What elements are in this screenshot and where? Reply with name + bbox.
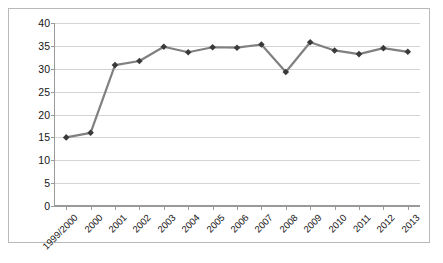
y-axis-tick-label: 40 bbox=[12, 18, 50, 28]
x-axis-tick-mark bbox=[164, 206, 165, 210]
x-axis-tick-mark bbox=[408, 206, 409, 210]
x-axis-tick-mark bbox=[286, 206, 287, 210]
x-axis-tick-mark bbox=[310, 206, 311, 210]
x-axis-tick-mark bbox=[237, 206, 238, 210]
line-series-plot bbox=[54, 23, 420, 206]
x-axis-tick-mark bbox=[115, 206, 116, 210]
y-axis-tick-label: 20 bbox=[12, 110, 50, 120]
data-point-marker bbox=[356, 51, 363, 58]
data-point-marker bbox=[112, 62, 119, 69]
x-axis-tick-mark bbox=[66, 206, 67, 210]
x-axis-tick-mark bbox=[261, 206, 262, 210]
x-axis-tick-mark bbox=[359, 206, 360, 210]
y-axis-tick-label: 35 bbox=[12, 41, 50, 51]
x-axis-tick-mark bbox=[188, 206, 189, 210]
data-point-marker bbox=[87, 130, 94, 137]
data-point-marker bbox=[405, 49, 412, 56]
data-point-marker bbox=[234, 44, 241, 51]
data-point-marker bbox=[185, 49, 192, 56]
data-point-marker bbox=[63, 134, 70, 141]
data-point-marker bbox=[331, 47, 338, 54]
y-axis-tick-label: 5 bbox=[12, 178, 50, 188]
y-axis-tick-labels: 0510152025303540 bbox=[9, 23, 50, 206]
x-axis-tick-mark bbox=[383, 206, 384, 210]
x-axis-tick-mark bbox=[91, 206, 92, 210]
chart-frame: 0510152025303540 1999/200020002001200220… bbox=[8, 8, 430, 243]
y-axis-tick-label: 25 bbox=[12, 87, 50, 97]
x-axis-tick-mark bbox=[139, 206, 140, 210]
x-axis-tick-mark bbox=[213, 206, 214, 210]
x-axis-tick-mark bbox=[335, 206, 336, 210]
data-point-marker bbox=[380, 45, 387, 52]
y-axis-tick-label: 15 bbox=[12, 132, 50, 142]
data-point-marker bbox=[209, 44, 216, 51]
y-axis-tick-label: 30 bbox=[12, 64, 50, 74]
series-line bbox=[66, 42, 408, 137]
y-axis-tick-label: 0 bbox=[12, 201, 50, 211]
y-axis-tick-label: 10 bbox=[12, 155, 50, 165]
